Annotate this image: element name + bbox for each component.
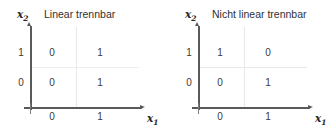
y-axis-name: x2 bbox=[185, 8, 196, 23]
x-axis-line bbox=[24, 107, 142, 109]
x-axis-name-subscript: 1 bbox=[321, 118, 326, 127]
gridline-vertical bbox=[76, 27, 77, 108]
x-tick-label-0: 0 bbox=[213, 111, 227, 122]
x-axis-arrow-icon bbox=[308, 105, 313, 109]
y-tick-label-0: 0 bbox=[14, 77, 28, 88]
x-tick-label-1: 1 bbox=[261, 111, 275, 122]
cell-value: 0 bbox=[260, 47, 276, 58]
y-tick-label-0: 0 bbox=[182, 77, 196, 88]
gridline-horizontal bbox=[199, 67, 307, 68]
figure-container: Linear trennbar 0 1 0 1 x1 x2 0 1 0 1 Ni… bbox=[0, 0, 336, 136]
x-axis-name-subscript: 1 bbox=[153, 118, 158, 127]
plot-area-not-linear-separable: Nicht linear trennbar 0 1 0 1 x1 x2 1 0 … bbox=[168, 0, 336, 136]
panel-linear-separable: Linear trennbar 0 1 0 1 x1 x2 0 1 0 1 bbox=[0, 0, 168, 136]
x-axis-arrow-icon bbox=[140, 105, 145, 109]
x-axis-name: x1 bbox=[147, 112, 158, 127]
gridline-horizontal bbox=[31, 67, 139, 68]
y-axis-line bbox=[198, 26, 200, 110]
cell-value: 1 bbox=[260, 77, 276, 88]
y-axis-name: x2 bbox=[17, 8, 28, 23]
y-axis-line bbox=[30, 26, 32, 110]
y-axis-name-subscript: 2 bbox=[191, 14, 196, 23]
cell-value: 0 bbox=[44, 47, 60, 58]
x-tick-label-0: 0 bbox=[45, 111, 59, 122]
gridline-vertical bbox=[244, 27, 245, 108]
cell-value: 0 bbox=[212, 77, 228, 88]
cell-value: 1 bbox=[92, 77, 108, 88]
cell-value: 1 bbox=[212, 47, 228, 58]
origin-tick-mark bbox=[198, 103, 200, 114]
y-axis-name-subscript: 2 bbox=[23, 14, 28, 23]
y-tick-label-1: 1 bbox=[14, 47, 28, 58]
x-axis-line bbox=[192, 107, 310, 109]
y-tick-label-1: 1 bbox=[182, 47, 196, 58]
plot-area-linear-separable: Linear trennbar 0 1 0 1 x1 x2 0 1 0 1 bbox=[0, 0, 168, 136]
origin-tick-mark bbox=[30, 103, 32, 114]
panel-title-not-linear-separable: Nicht linear trennbar bbox=[212, 8, 332, 20]
x-axis-name: x1 bbox=[315, 112, 326, 127]
x-tick-label-1: 1 bbox=[93, 111, 107, 122]
cell-value: 1 bbox=[92, 47, 108, 58]
panel-title-linear-separable: Linear trennbar bbox=[44, 8, 164, 20]
cell-value: 0 bbox=[44, 77, 60, 88]
panel-not-linear-separable: Nicht linear trennbar 0 1 0 1 x1 x2 1 0 … bbox=[168, 0, 336, 136]
